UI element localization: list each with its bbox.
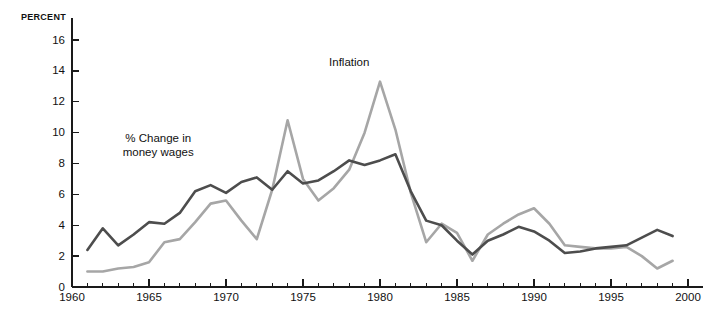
- x-tick-label: 1960: [59, 291, 85, 303]
- x-tick-label: 1990: [521, 291, 547, 303]
- x-tick-label: 1980: [367, 291, 393, 303]
- series-layer: [87, 82, 672, 272]
- x-axis: 196019651970197519801985199019952000: [59, 279, 703, 303]
- y-tick-label: 10: [52, 126, 65, 138]
- series-line-inflation: [87, 82, 672, 272]
- x-tick-label: 1965: [136, 291, 162, 303]
- x-tick-label: 1970: [213, 291, 239, 303]
- x-tick-label: 1975: [290, 291, 316, 303]
- inflation-label: Inflation: [329, 56, 369, 68]
- y-tick-label: 2: [59, 250, 65, 262]
- y-tick-label: 16: [52, 34, 65, 46]
- annotation-layer: Inflation% Change inmoney wages: [123, 56, 370, 158]
- x-tick-label: 1985: [444, 291, 470, 303]
- chart-container: PERCENT 0246810121416 196019651970197519…: [0, 0, 714, 318]
- y-tick-label: 6: [59, 188, 65, 200]
- y-axis: 0246810121416: [52, 18, 79, 293]
- x-tick-label: 2000: [675, 291, 701, 303]
- wages-label-line1: % Change in: [125, 132, 191, 144]
- wages-label-line2: money wages: [123, 146, 194, 158]
- y-tick-label: 14: [52, 64, 65, 76]
- y-tick-label: 4: [59, 219, 66, 231]
- line-chart: PERCENT 0246810121416 196019651970197519…: [0, 0, 714, 318]
- y-tick-label: 12: [52, 95, 65, 107]
- x-tick-label: 1995: [598, 291, 624, 303]
- y-axis-title: PERCENT: [21, 12, 66, 22]
- y-tick-label: 8: [59, 157, 65, 169]
